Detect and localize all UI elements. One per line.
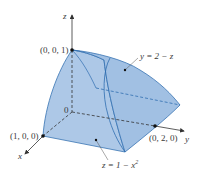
plane-leader-dot	[124, 69, 126, 71]
point-x-intercept	[41, 134, 45, 138]
origin-label: 0	[64, 105, 69, 115]
x-axis-label: x	[17, 151, 22, 161]
z-intercept-label: (0, 0, 1)	[40, 45, 69, 55]
y-axis	[155, 126, 184, 131]
solid-region-diagram: z (0, 0, 1) 0 (1, 0, 0) x (0, 2, 0) y y …	[0, 0, 197, 178]
cylinder-equation-label: z = 1 − x2	[101, 159, 138, 170]
point-y-intercept	[153, 124, 157, 128]
y-intercept-label: (0, 2, 0)	[149, 133, 178, 143]
x-intercept-label: (1, 0, 0)	[10, 131, 39, 141]
cylinder-leader-dot	[95, 139, 97, 141]
point-z-intercept	[70, 48, 74, 52]
y-axis-label: y	[184, 134, 189, 144]
plane-equation-label: y = 2 − z	[139, 51, 174, 61]
z-axis-label: z	[62, 11, 67, 21]
